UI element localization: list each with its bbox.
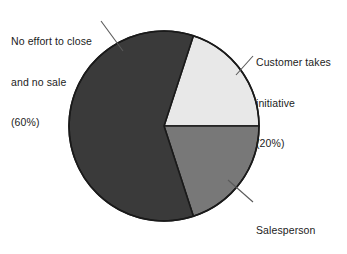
leader-line-customer (236, 56, 253, 75)
pie-chart-figure: No effort to close and no sale (60%) Cus… (0, 0, 347, 254)
pie-label-no-effort-line1: No effort to close (11, 35, 92, 49)
pie-label-customer-takes-initiative: Customer takes initiative (20%) (256, 29, 331, 178)
pie-label-no-effort-percent: (60%) (11, 116, 92, 130)
pie-label-no-effort-line2: and no sale (11, 76, 92, 90)
pie-label-salesperson-line1: Salesperson (256, 224, 337, 238)
pie-label-salesperson-attempts-to-close: Salesperson attempts to close (20%) (256, 197, 337, 254)
pie-label-customer-percent: (20%) (256, 137, 331, 151)
pie-label-no-effort-to-close: No effort to close and no sale (60%) (11, 8, 92, 157)
pie-label-customer-line2: initiative (256, 97, 331, 111)
pie-label-customer-line1: Customer takes (256, 56, 331, 70)
